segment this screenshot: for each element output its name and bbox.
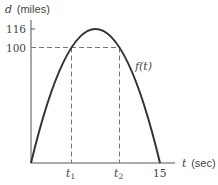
x-tick-label-15: 15 [153,167,166,179]
x-tick-label-t2: t2 [114,167,123,181]
y-axis-label: d (miles) [5,3,50,16]
curve-f-of-t [31,29,160,163]
y-tick-label-100: 100 [6,42,26,54]
x-tick-label-t1: t1 [66,167,75,181]
curve-label: f(t) [134,60,152,73]
y-tick-label-116: 116 [6,23,26,35]
x-axis-label: t (sec) [182,157,216,170]
chart: d (miles) 116 100 f(t) t1 t2 15 t (sec) [0,0,218,185]
